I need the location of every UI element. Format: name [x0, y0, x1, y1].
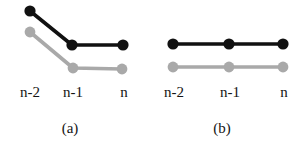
panel-a-black-point-n-1 — [66, 39, 77, 50]
panel-a-gray-point-n-2 — [25, 27, 36, 38]
panel-a-black-point-n-2 — [24, 5, 35, 16]
panel-a-gray-point-n-1 — [68, 63, 79, 74]
panel-b-gray-point-n — [278, 62, 289, 73]
panel-b-black-point-n-2 — [167, 38, 178, 49]
panel-a: n-2 n-1 n (a) — [0, 0, 150, 149]
panel-b-gray-point-n-1 — [224, 62, 235, 73]
panel-b-gray-point-n-2 — [168, 62, 179, 73]
panel-a-tick-label-n: n — [100, 82, 148, 102]
panel-a-tick-label-n-1: n-1 — [49, 82, 97, 102]
panel-a-gray-point-n — [117, 64, 128, 75]
panel-a-tick-row: n-2 n-1 n — [0, 82, 150, 104]
figure-root: n-2 n-1 n (a) n-2 n-1 n (b) — [0, 0, 303, 149]
panel-a-black-line — [30, 11, 123, 45]
panel-b-plot — [150, 0, 303, 82]
panel-b-black-point-n-1 — [223, 38, 234, 49]
panel-b-tick-label-n-2: n-2 — [150, 82, 198, 102]
panel-a-tick-label-n-2: n-2 — [6, 82, 54, 102]
panel-b-black-point-n — [277, 38, 288, 49]
panel-a-caption: (a) — [50, 117, 90, 139]
panel-b-tick-label-n-1: n-1 — [206, 82, 254, 102]
panel-b-caption: (b) — [202, 117, 242, 139]
panel-b-tick-row: n-2 n-1 n — [150, 82, 303, 104]
panel-b: n-2 n-1 n (b) — [150, 0, 303, 149]
panel-a-plot — [0, 0, 150, 82]
panel-a-gray-line — [30, 32, 122, 69]
panel-b-tick-label-n: n — [260, 82, 303, 102]
panel-a-black-point-n — [117, 39, 128, 50]
